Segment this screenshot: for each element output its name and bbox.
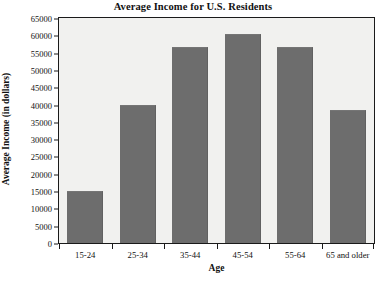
y-axis-tick-label: 30000 [12, 135, 52, 145]
bar [67, 191, 103, 243]
y-axis-tick-label: 40000 [12, 101, 52, 111]
bar-chart-figure: Average Income for U.S. Residents Averag… [0, 0, 386, 282]
bar [277, 47, 313, 243]
x-axis-tick-labels: 15-2425-3435-4445-5455-6465 and older [58, 250, 375, 264]
x-axis-tick-label: 35-44 [180, 250, 200, 260]
bars-layer [59, 18, 374, 243]
y-axis-tick-label: 35000 [12, 118, 52, 128]
y-axis-tick-label: 55000 [12, 49, 52, 59]
x-axis-tick-mark [217, 244, 218, 249]
y-axis-tick-labels: 0500010000150002000025000300003500040000… [14, 18, 56, 244]
chart-title: Average Income for U.S. Residents [0, 1, 386, 12]
bar [225, 34, 261, 243]
x-axis-label: Age [58, 263, 375, 273]
plot-area [58, 17, 375, 244]
x-axis-tick-label: 15-24 [75, 250, 95, 260]
x-axis-tick-label: 25-34 [128, 250, 148, 260]
y-axis-tick-label: 45000 [12, 83, 52, 93]
x-axis-tick-label: 45-54 [233, 250, 253, 260]
x-axis-tick-marks [58, 244, 375, 249]
bar [120, 105, 156, 243]
x-axis-tick-mark [164, 244, 165, 249]
x-axis-tick-mark [322, 244, 323, 249]
x-axis-tick-label: 65 and older [326, 250, 369, 260]
y-axis-tick-label: 20000 [12, 170, 52, 180]
y-axis-tick-label: 15000 [12, 187, 52, 197]
y-axis-tick-label: 65000 [12, 14, 52, 24]
y-axis-tick-label: 60000 [12, 31, 52, 41]
x-axis-tick-mark [373, 244, 374, 249]
bar [172, 47, 208, 243]
y-axis-tick-label: 0 [12, 239, 52, 249]
y-axis-tick-label: 10000 [12, 204, 52, 214]
y-axis-tick-label: 5000 [12, 222, 52, 232]
y-axis-label: Average Income (in dollars) [1, 15, 11, 243]
x-axis-tick-label: 55-64 [285, 250, 305, 260]
y-axis-tick-label: 25000 [12, 152, 52, 162]
y-axis-tick-label: 50000 [12, 66, 52, 76]
x-axis-tick-mark [269, 244, 270, 249]
x-axis-tick-mark [59, 244, 60, 249]
x-axis-tick-mark [112, 244, 113, 249]
bar [330, 110, 366, 243]
